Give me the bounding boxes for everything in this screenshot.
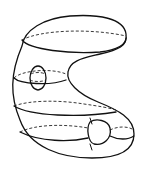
upper-left-cross-section-back [14,71,66,78]
lower-cross-section-right-front [110,136,134,139]
right-bubble [88,120,110,144]
top-cross-section-front [22,38,126,53]
left-bubble-slice-1 [31,73,45,75]
top-cross-section-back [22,31,126,40]
lower-cross-section-back [20,125,88,132]
left-bubble [30,66,46,90]
lower-cross-section-front [20,132,88,140]
lower-cross-section-right-back [110,127,134,130]
middle-cross-section-front [14,106,116,115]
upper-left-cross-section-front [14,78,66,84]
left-bubble-slice-2 [30,80,46,82]
surface-diagram [0,0,141,175]
right-bubble-tick-bottom [90,144,92,150]
